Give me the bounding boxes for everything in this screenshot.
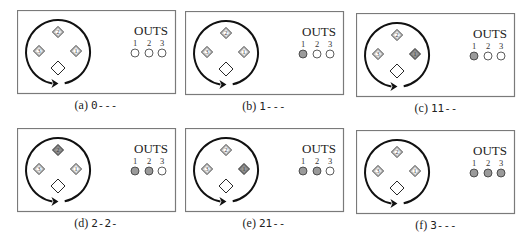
- diamond-label: 3: [377, 51, 380, 57]
- out-label-1: 1: [472, 41, 476, 51]
- caption-label: (a): [75, 98, 88, 112]
- diamond-label: 2: [225, 147, 228, 153]
- outs-title: OUTS: [134, 23, 168, 38]
- out-indicator-2: [145, 49, 153, 57]
- panel-diagram: 231OUTS123: [356, 130, 516, 215]
- caption-label: (d): [74, 216, 88, 230]
- caption-label: (b): [242, 99, 256, 113]
- out-indicator-3: [158, 167, 166, 175]
- caption-label: (c): [415, 101, 428, 115]
- out-label-1: 1: [133, 156, 137, 166]
- out-indicator-2: [484, 52, 492, 60]
- diamond-label: 2: [396, 32, 399, 38]
- diamond-label: 2: [225, 30, 228, 36]
- out-label-1: 1: [472, 158, 476, 168]
- diamond-label: 3: [38, 48, 41, 54]
- out-label-3: 3: [160, 156, 164, 166]
- diamond-label: 3: [38, 166, 41, 172]
- caption-code: 1---: [259, 100, 286, 113]
- caption-e: (e) 21--: [164, 216, 364, 231]
- out-indicator-2: [145, 167, 153, 175]
- diamond-label: 1: [414, 168, 417, 174]
- caption-c: (c) 11--: [336, 101, 529, 116]
- panel-diagram: 231OUTS123: [185, 128, 345, 213]
- out-indicator-2: [484, 169, 492, 177]
- out-indicator-3: [326, 167, 334, 175]
- diamond-label: 2: [57, 147, 60, 153]
- outs-title: OUTS: [302, 24, 336, 39]
- out-indicator-3: [326, 50, 334, 58]
- diamond-label: 1: [243, 166, 246, 172]
- out-label-3: 3: [328, 39, 332, 49]
- out-label-3: 3: [499, 158, 503, 168]
- out-label-1: 1: [301, 156, 305, 166]
- out-indicator-3: [158, 49, 166, 57]
- panel-diagram: 231OUTS123: [185, 11, 345, 96]
- out-indicator-2: [313, 167, 321, 175]
- caption-code: 21--: [259, 217, 286, 230]
- caption-label: (f): [415, 218, 427, 232]
- out-indicator-1: [470, 169, 478, 177]
- diamond-label: 2: [396, 149, 399, 155]
- out-label-2: 2: [147, 38, 151, 48]
- out-label-3: 3: [160, 38, 164, 48]
- outs-title: OUTS: [473, 143, 507, 158]
- outs-title: OUTS: [473, 26, 507, 41]
- out-indicator-3: [497, 52, 505, 60]
- outs-title: OUTS: [134, 141, 168, 156]
- panel-diagram: 231OUTS123: [17, 10, 177, 95]
- diamond-label: 2: [57, 29, 60, 35]
- out-indicator-1: [299, 50, 307, 58]
- out-indicator-1: [470, 52, 478, 60]
- diamond-label: 3: [377, 168, 380, 174]
- out-label-1: 1: [301, 39, 305, 49]
- out-indicator-1: [299, 167, 307, 175]
- out-label-1: 1: [133, 38, 137, 48]
- caption-b: (b) 1---: [164, 99, 364, 114]
- out-label-3: 3: [499, 41, 503, 51]
- diamond-label: 3: [206, 166, 209, 172]
- diamond-label: 3: [206, 49, 209, 55]
- caption-code: 3---: [430, 219, 457, 232]
- out-indicator-3: [497, 169, 505, 177]
- diamond-label: 1: [243, 49, 246, 55]
- caption-code: 0---: [91, 99, 118, 112]
- out-label-2: 2: [486, 41, 490, 51]
- diamond-label: 1: [414, 51, 417, 57]
- out-label-3: 3: [328, 156, 332, 166]
- caption-f: (f) 3---: [336, 218, 529, 233]
- out-label-2: 2: [315, 156, 319, 166]
- diamond-label: 1: [75, 48, 78, 54]
- out-label-2: 2: [486, 158, 490, 168]
- out-label-2: 2: [147, 156, 151, 166]
- out-indicator-1: [131, 167, 139, 175]
- caption-code: 11--: [431, 102, 458, 115]
- caption-label: (e): [243, 216, 256, 230]
- out-indicator-1: [131, 49, 139, 57]
- diamond-label: 1: [75, 166, 78, 172]
- panel-diagram: 231OUTS123: [17, 128, 177, 213]
- out-indicator-2: [313, 50, 321, 58]
- caption-code: 2-2-: [91, 217, 118, 230]
- out-label-2: 2: [315, 39, 319, 49]
- outs-title: OUTS: [302, 141, 336, 156]
- panel-diagram: 231OUTS123: [356, 13, 516, 98]
